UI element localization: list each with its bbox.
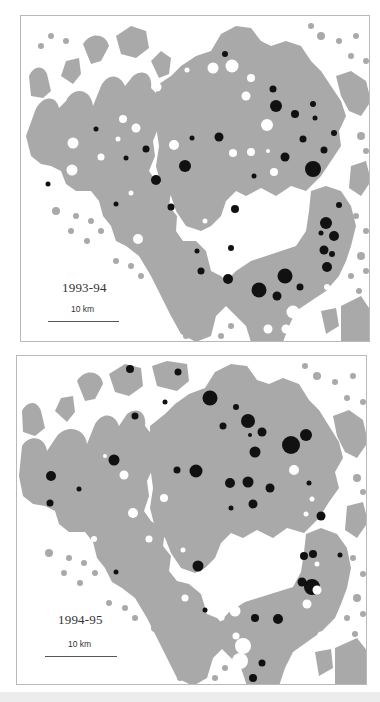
open-circle-marker xyxy=(266,149,270,153)
open-circle-marker xyxy=(91,536,97,542)
filled-circle-marker xyxy=(225,478,235,488)
filled-circle-marker xyxy=(281,153,290,162)
open-circle-marker xyxy=(261,119,273,131)
filled-circle-marker xyxy=(228,245,234,251)
filled-circle-marker xyxy=(195,249,200,254)
open-circle-marker xyxy=(226,60,239,73)
filled-circle-marker xyxy=(250,447,261,458)
filled-circle-marker xyxy=(329,231,339,241)
open-circle-marker xyxy=(264,325,273,334)
open-circle-marker xyxy=(51,512,56,517)
filled-circle-marker xyxy=(270,100,282,112)
filled-circle-marker xyxy=(46,471,56,481)
filled-circle-marker xyxy=(193,561,204,572)
filled-circle-marker xyxy=(126,365,134,373)
filled-circle-marker xyxy=(252,283,267,298)
filled-circle-marker xyxy=(47,500,54,507)
filled-circle-marker xyxy=(222,51,228,57)
filled-circle-marker xyxy=(243,477,254,488)
filled-circle-marker xyxy=(252,174,257,179)
filled-circle-marker xyxy=(251,614,259,622)
open-circle-marker xyxy=(215,229,224,238)
open-circle-marker xyxy=(116,137,121,142)
open-circle-marker xyxy=(67,165,78,176)
filled-circle-marker xyxy=(317,512,326,521)
filled-circle-marker xyxy=(223,274,233,284)
open-circle-marker xyxy=(310,497,315,502)
open-circle-marker xyxy=(233,633,240,640)
open-circle-marker xyxy=(242,92,251,101)
filled-circle-marker xyxy=(114,570,119,575)
filled-circle-marker xyxy=(300,552,308,560)
filled-circle-marker xyxy=(310,101,316,107)
filled-circle-marker xyxy=(307,481,312,486)
filled-circle-marker xyxy=(338,553,343,558)
filled-circle-marker xyxy=(331,130,337,136)
filled-circle-marker xyxy=(168,204,175,211)
open-circle-marker xyxy=(324,284,330,290)
filled-circle-marker xyxy=(282,436,300,454)
filled-circle-marker xyxy=(291,110,299,118)
open-circle-marker xyxy=(313,586,322,595)
filled-circle-marker xyxy=(46,182,51,187)
filled-circle-marker xyxy=(143,146,150,153)
open-circle-marker xyxy=(169,140,179,150)
filled-circle-marker xyxy=(321,147,328,154)
filled-circle-marker xyxy=(248,433,252,437)
filled-circle-marker xyxy=(163,400,168,405)
open-circle-marker xyxy=(304,512,309,517)
open-circle-marker xyxy=(247,74,255,82)
open-circle-marker xyxy=(181,548,186,553)
scale-bar xyxy=(45,656,117,657)
filled-circle-marker xyxy=(229,506,234,511)
open-circle-marker xyxy=(203,219,208,224)
scale-label: 10 km xyxy=(68,639,91,649)
open-circle-marker xyxy=(282,325,291,334)
filled-circle-marker xyxy=(233,404,239,410)
open-circle-marker xyxy=(185,68,190,73)
filled-circle-marker xyxy=(320,246,329,255)
scale-label: 10 km xyxy=(71,304,94,314)
open-circle-marker xyxy=(208,63,219,74)
season-label: 1993-94 xyxy=(62,280,107,296)
open-circle-marker xyxy=(68,138,79,149)
filled-circle-marker xyxy=(174,467,181,474)
filled-circle-marker xyxy=(259,660,266,667)
open-circle-marker xyxy=(129,191,134,196)
filled-circle-marker xyxy=(336,202,342,208)
filled-circle-marker xyxy=(329,251,335,257)
filled-circle-marker xyxy=(300,429,312,441)
open-circle-marker xyxy=(182,595,189,602)
filled-circle-marker xyxy=(305,161,321,177)
filled-circle-marker xyxy=(258,428,267,437)
filled-circle-marker xyxy=(77,487,82,492)
filled-circle-marker xyxy=(319,231,324,236)
open-circle-marker xyxy=(287,306,300,319)
open-circle-marker xyxy=(315,562,320,567)
open-circle-marker xyxy=(146,536,153,543)
filled-circle-marker xyxy=(322,262,332,272)
filled-circle-marker xyxy=(151,175,161,185)
filled-circle-marker xyxy=(249,500,258,509)
filled-circle-marker xyxy=(124,156,129,161)
open-circle-marker xyxy=(202,382,207,387)
open-circle-marker xyxy=(230,606,241,617)
open-circle-marker xyxy=(132,124,141,133)
filled-circle-marker xyxy=(132,413,139,420)
filled-circle-marker xyxy=(273,614,283,624)
open-circle-marker xyxy=(103,454,107,458)
open-circle-marker xyxy=(196,36,207,47)
filled-circle-marker xyxy=(320,217,332,229)
filled-circle-marker xyxy=(278,269,293,284)
open-circle-marker xyxy=(229,149,237,157)
season-label: 1994-95 xyxy=(58,612,103,628)
open-circle-marker xyxy=(133,234,143,244)
map-panel-1993-94: 1993-94 10 km xyxy=(20,15,370,342)
page-bottom-strip xyxy=(0,692,380,702)
filled-circle-marker xyxy=(203,391,218,406)
filled-circle-marker xyxy=(114,202,119,207)
open-circle-marker xyxy=(289,465,299,475)
scale-bar xyxy=(48,321,119,322)
open-circle-marker xyxy=(220,616,225,621)
filled-circle-marker xyxy=(309,550,317,558)
